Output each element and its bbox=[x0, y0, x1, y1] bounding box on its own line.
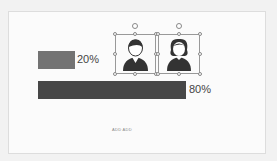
bar-20-label: 20% bbox=[77, 53, 99, 65]
rotate-handle-male[interactable] bbox=[132, 23, 138, 29]
male-icon-selection[interactable] bbox=[115, 34, 156, 74]
resize-handle[interactable] bbox=[113, 32, 117, 36]
female-person-icon bbox=[159, 35, 199, 73]
resize-handle[interactable] bbox=[177, 32, 181, 36]
resize-handle[interactable] bbox=[113, 72, 117, 76]
resize-handle[interactable] bbox=[198, 72, 202, 76]
footer-text: ADD ADD bbox=[112, 127, 132, 132]
resize-handle[interactable] bbox=[156, 32, 160, 36]
resize-handle[interactable] bbox=[113, 52, 117, 56]
resize-handle[interactable] bbox=[133, 72, 137, 76]
female-icon-selection[interactable] bbox=[158, 34, 200, 74]
bar-20-percent[interactable] bbox=[38, 51, 75, 69]
resize-handle[interactable] bbox=[133, 32, 137, 36]
resize-handle[interactable] bbox=[198, 52, 202, 56]
resize-handle[interactable] bbox=[156, 52, 160, 56]
bar-80-percent[interactable] bbox=[38, 81, 186, 99]
resize-handle[interactable] bbox=[156, 72, 160, 76]
male-person-icon bbox=[116, 35, 155, 73]
bar-80-label: 80% bbox=[189, 83, 211, 95]
rotate-handle-female[interactable] bbox=[176, 23, 182, 29]
resize-handle[interactable] bbox=[198, 32, 202, 36]
resize-handle[interactable] bbox=[177, 72, 181, 76]
